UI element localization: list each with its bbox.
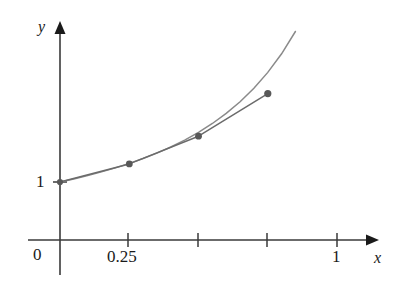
x-tick-label-025: 0.25 <box>107 248 137 265</box>
exact-solution-curve <box>60 32 295 183</box>
x-axis-arrow-icon <box>366 235 379 246</box>
x-tick-label-1: 1 <box>332 248 341 265</box>
data-point-0 <box>57 179 63 185</box>
y-tick-label-1: 1 <box>36 173 45 190</box>
origin-label: 0 <box>33 246 42 263</box>
data-point-group <box>57 90 272 185</box>
x-axis-label: x <box>374 250 381 266</box>
data-point-2 <box>195 133 202 140</box>
euler-polyline-approximation <box>60 94 268 182</box>
data-point-3 <box>264 90 271 97</box>
y-axis-arrow-icon <box>55 21 66 34</box>
data-point-1 <box>126 161 133 168</box>
y-axis-label: y <box>38 19 45 35</box>
